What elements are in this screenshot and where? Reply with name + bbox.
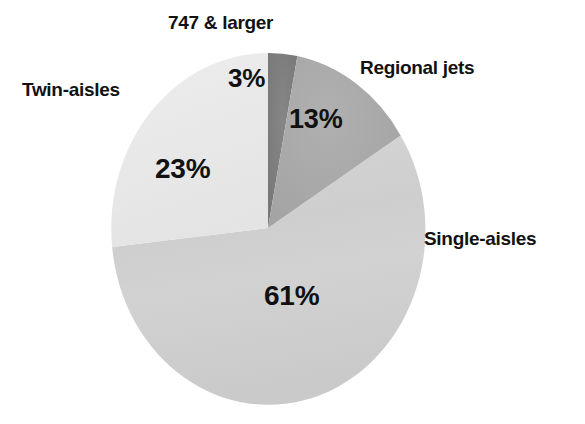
pie-chart-page: 3% 13% 23% 61% 747 & larger Regional jet… [0, 0, 585, 424]
pie-label-twin-aisles: Twin-aisles [22, 79, 120, 101]
pie-label-single-aisles: Single-aisles [424, 228, 536, 250]
pie-chart: 3% 13% 23% 61% 747 & larger Regional jet… [0, 0, 585, 424]
pie-value-twin-aisles: 23% [155, 153, 210, 185]
pie-label-747-and-larger: 747 & larger [168, 12, 273, 34]
pie-value-regional-jets: 13% [289, 104, 342, 135]
pie-value-single-aisles: 61% [264, 280, 319, 312]
pie-value-747-and-larger: 3% [228, 63, 265, 94]
pie-svg [0, 0, 585, 424]
pie-label-regional-jets: Regional jets [360, 57, 474, 79]
